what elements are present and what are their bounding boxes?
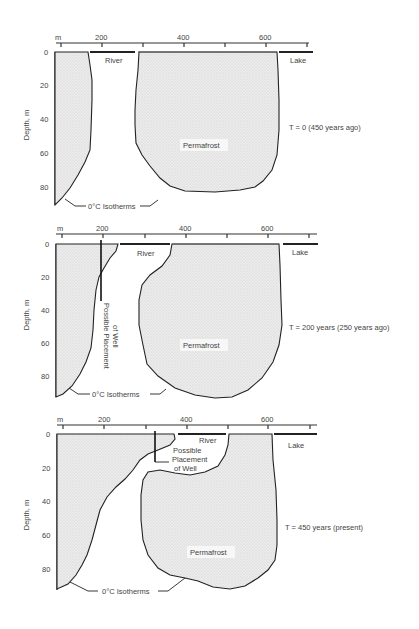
well-label-line2: Placement (172, 455, 208, 464)
isotherm-label: 0°C Isotherms (88, 202, 136, 211)
x-tick-label: 600 (259, 33, 272, 42)
lake-label: Lake (292, 248, 308, 257)
permafrost-diagram: m 200 400 600 0 20 40 60 80 Depth, m Riv… (0, 0, 419, 629)
time-label: T = 0 (450 years ago) (289, 123, 361, 132)
permafrost-right (141, 434, 277, 589)
y-tick-label: 60 (41, 339, 49, 348)
x-tick-label: 400 (177, 33, 190, 42)
permafrost-right (135, 52, 279, 192)
panel-t200: m 200 400 600 0 20 40 60 80 Depth, m Pos… (22, 224, 390, 399)
y-axis: 0 20 40 60 80 Depth, m (22, 240, 60, 397)
well-label-line3: of Well (174, 464, 197, 473)
time-label: T = 200 years (250 years ago) (289, 323, 390, 332)
well-label-line1: Possible Placement (102, 303, 111, 370)
y-tick-label: 20 (40, 81, 48, 90)
x-tick-label: 200 (96, 224, 109, 233)
y-tick-label: 80 (41, 372, 49, 381)
x-tick-label: 400 (179, 224, 192, 233)
x-axis: m 200 400 600 (57, 415, 317, 429)
x-unit-label: m (57, 415, 63, 424)
x-tick-label: 400 (180, 415, 193, 424)
x-axis: m 200 400 600 (55, 33, 309, 47)
x-tick-label: 200 (98, 415, 111, 424)
isotherm-leader-left (65, 199, 86, 206)
y-tick-label: 0 (46, 430, 50, 439)
lake-label: Lake (288, 441, 304, 450)
y-tick-label: 20 (41, 273, 49, 282)
y-axis: 0 20 40 60 80 Depth, m (22, 430, 61, 590)
panel-t450: m 200 400 600 0 20 40 60 80 Depth, m Riv… (22, 415, 364, 596)
permafrost-label: Permafrost (190, 548, 228, 557)
river-label: River (199, 436, 217, 445)
x-unit-label: m (55, 33, 61, 42)
y-tick-label: 80 (40, 183, 48, 192)
isotherm-leader-left (69, 388, 90, 394)
y-tick-label: 60 (40, 149, 48, 158)
lake-label: Lake (290, 56, 306, 65)
well-label-line2: of Well (111, 325, 120, 348)
x-tick-label: 600 (261, 415, 274, 424)
isotherm-label: 0°C Isotherms (92, 390, 140, 399)
well-label-line1: Possible (173, 446, 201, 455)
isotherm-leader-left (70, 582, 98, 591)
y-tick-label: 80 (42, 565, 50, 574)
y-axis-title: Depth, m (22, 500, 31, 530)
x-tick-label: 600 (261, 224, 274, 233)
y-tick-label: 40 (40, 115, 48, 124)
isotherm-leader-right (140, 200, 158, 206)
isotherm-label: 0°C Isotherms (102, 587, 150, 596)
isotherm-leader-right (158, 578, 185, 591)
well-label-vertical: Possible Placement of Well (102, 303, 120, 370)
x-axis: m 200 400 600 (56, 224, 317, 238)
isotherm-leader-right (150, 389, 166, 394)
y-tick-label: 0 (45, 240, 49, 249)
panel-t0: m 200 400 600 0 20 40 60 80 Depth, m Riv… (22, 33, 361, 211)
y-tick-label: 60 (42, 531, 50, 540)
river-label: River (137, 249, 155, 258)
permafrost-label: Permafrost (183, 341, 221, 350)
permafrost-right (139, 244, 282, 398)
y-tick-label: 0 (44, 48, 48, 57)
permafrost-left (55, 52, 92, 205)
time-label: T = 450 years (present) (285, 523, 364, 532)
x-tick-label: 200 (95, 33, 108, 42)
y-tick-label: 40 (41, 306, 49, 315)
y-axis-title: Depth, m (22, 300, 31, 330)
x-unit-label: m (57, 224, 63, 233)
river-label: River (105, 56, 123, 65)
y-axis-title: Depth, m (22, 110, 31, 140)
y-tick-label: 40 (42, 497, 50, 506)
permafrost-label: Permafrost (183, 141, 221, 150)
y-axis: 0 20 40 60 80 Depth, m (22, 48, 59, 205)
y-tick-label: 20 (42, 464, 50, 473)
